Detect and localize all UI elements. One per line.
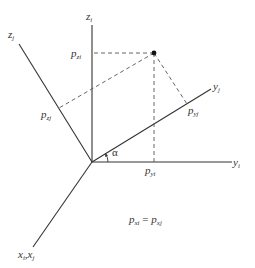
- yj-axis: [92, 89, 211, 162]
- x-axis: [33, 162, 92, 247]
- angle-arrowhead-icon: [105, 154, 108, 158]
- label-x: xi,xj: [17, 248, 34, 262]
- label-pyj: pyj: [187, 104, 199, 118]
- label-zj: zj: [7, 28, 14, 42]
- label-yj: yj: [212, 80, 220, 94]
- projection-to-zj: [59, 53, 154, 108]
- label-pyi: pyi: [144, 164, 156, 178]
- projection-lines: [59, 53, 187, 162]
- projection-to-yj: [154, 53, 187, 104]
- equation-pxi-equals-pxj: pxi = pxj: [128, 213, 162, 227]
- zj-axis: [19, 44, 92, 162]
- label-pzi: pzi: [70, 47, 81, 61]
- coordinate-frame-diagram: zi zj yi yj xi,xj pzi pzj pyi pyj α pxi …: [0, 0, 255, 268]
- axes: [19, 25, 232, 247]
- label-zi: zi: [85, 10, 92, 24]
- point-p: [152, 51, 157, 56]
- label-pzj: pzj: [40, 108, 51, 122]
- label-yi: yi: [232, 156, 240, 170]
- label-alpha: α: [112, 146, 118, 158]
